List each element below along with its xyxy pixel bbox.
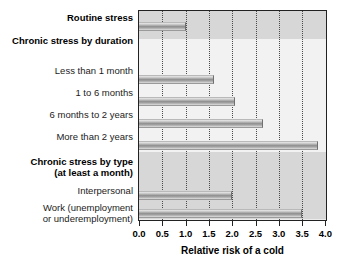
bar-6-months-to-2-years [139, 119, 263, 128]
tick-0-5 [162, 221, 163, 226]
bar-more-than-2-years [139, 141, 318, 150]
group-header-chronic-stress-by-duration: Chronic stress by duration [12, 36, 133, 47]
tick-1-0 [186, 221, 187, 226]
category-label-interpersonal: Interpersonal [78, 186, 133, 197]
gridline-1-0 [186, 11, 187, 220]
category-label-6-months-to-2-years: 6 months to 2 years [50, 110, 133, 121]
relative-risk-bar-chart: Routine stress Chronic stress by duratio… [0, 0, 341, 263]
xtick-label-2-0: 2.0 [226, 228, 239, 239]
bar-work [139, 209, 302, 218]
xtick-label-3-0: 3.0 [272, 228, 285, 239]
gridline-0-5 [162, 11, 163, 220]
x-axis-tick-labels: 0.0 0.5 1.0 1.5 2.0 2.5 3.0 3.5 4.0 [128, 228, 338, 241]
tick-4-0 [325, 221, 326, 226]
bar-routine-stress [139, 22, 186, 31]
gridline-1-5 [209, 11, 210, 220]
xtick-label-3-5: 3.5 [295, 228, 308, 239]
group-header-chronic-stress-by-type-line2: (at least a month) [54, 168, 133, 179]
gridline-3-0 [279, 11, 280, 220]
gridline-2-5 [256, 11, 257, 220]
category-label-more-than-2-years: More than 2 years [56, 132, 133, 143]
category-label-column: Routine stress Chronic stress by duratio… [0, 0, 136, 221]
tick-2-0 [232, 221, 233, 226]
xtick-label-0-0: 0.0 [132, 228, 145, 239]
tick-2-5 [256, 221, 257, 226]
category-label-less-than-1-month: Less than 1 month [55, 66, 133, 77]
tick-1-5 [209, 221, 210, 226]
gridline-3-5 [302, 11, 303, 220]
bar-1-to-6-months [139, 97, 235, 106]
x-axis-title: Relative risk of a cold [138, 245, 327, 256]
category-label-routine-stress: Routine stress [67, 13, 133, 24]
xtick-label-4-0: 4.0 [319, 228, 332, 239]
plot-area [138, 10, 327, 221]
xtick-label-0-5: 0.5 [156, 228, 169, 239]
bar-interpersonal [139, 191, 232, 200]
gridline-2-0 [232, 11, 233, 220]
tick-3-0 [279, 221, 280, 226]
group-header-chronic-stress-by-type-line1: Chronic stress by type [31, 157, 133, 168]
xtick-label-1-5: 1.5 [202, 228, 215, 239]
category-label-1-to-6-months: 1 to 6 months [75, 88, 133, 99]
xtick-label-2-5: 2.5 [249, 228, 262, 239]
category-label-work-line1: Work (unemployment [43, 203, 133, 214]
bar-less-than-1-month [139, 75, 214, 84]
x-axis-ticks [138, 221, 327, 227]
category-label-work-line2: or underemployment) [43, 214, 133, 225]
tick-3-5 [302, 221, 303, 226]
xtick-label-1-0: 1.0 [179, 228, 192, 239]
tick-0-0 [139, 221, 140, 226]
